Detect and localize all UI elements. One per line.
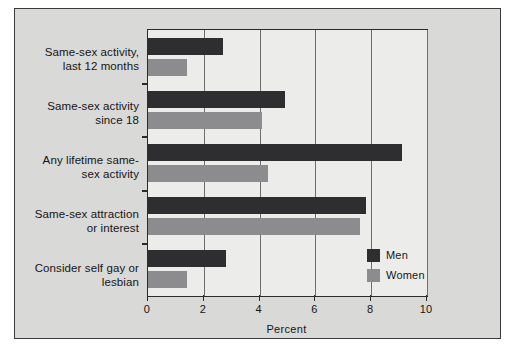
x-tick-label-8: 8 (355, 303, 385, 315)
bar-men-0 (148, 38, 223, 55)
x-tick-2 (203, 295, 204, 301)
men-swatch-icon (367, 249, 380, 262)
category-tick-4 (142, 243, 148, 245)
chart-legend: Men Women (367, 245, 425, 285)
chart-panel: Same-sex activity, last 12 months Same-s… (14, 8, 501, 339)
x-tick-label-6: 6 (299, 303, 329, 315)
category-axis: Same-sex activity, last 12 months Same-s… (15, 29, 147, 297)
bar-women-0 (148, 59, 187, 76)
category-label-3: Same-sex attraction or interest (25, 207, 147, 235)
chart-figure: Same-sex activity, last 12 months Same-s… (0, 0, 520, 356)
category-label-4-line2: lesbian (25, 275, 139, 289)
category-label-0-line2: last 12 months (25, 59, 139, 73)
x-tick-0 (147, 295, 148, 301)
category-label-2: Any lifetime same- sex activity (25, 153, 147, 181)
x-tick-label-0: 0 (132, 303, 162, 315)
x-tick-8 (370, 295, 371, 301)
category-label-4-line1: Consider self gay or (25, 261, 139, 275)
x-tick-6 (314, 295, 315, 301)
category-label-1: Same-sex activity since 18 (25, 99, 147, 127)
category-label-3-line1: Same-sex attraction (25, 207, 139, 221)
category-label-2-line1: Any lifetime same- (25, 153, 139, 167)
bar-men-4 (148, 250, 226, 267)
category-label-1-line2: since 18 (25, 113, 139, 127)
x-tick-label-4: 4 (244, 303, 274, 315)
category-label-0-line1: Same-sex activity, (25, 45, 139, 59)
category-label-0: Same-sex activity, last 12 months (25, 45, 147, 73)
category-label-4: Consider self gay or lesbian (25, 261, 147, 289)
category-tick-1 (142, 83, 148, 85)
category-tick-3 (142, 190, 148, 192)
gridline-4 (260, 30, 261, 296)
legend-label-women: Women (386, 269, 425, 281)
category-label-3-line2: or interest (25, 221, 139, 235)
legend-item-women: Women (367, 265, 425, 285)
gridline-10 (427, 30, 428, 296)
category-tick-2 (142, 136, 148, 138)
x-tick-4 (259, 295, 260, 301)
bar-women-1 (148, 112, 262, 129)
gridline-6 (315, 30, 316, 296)
bar-women-2 (148, 165, 268, 182)
legend-item-men: Men (367, 245, 425, 265)
legend-label-men: Men (386, 249, 408, 261)
category-label-2-line2: sex activity (25, 167, 139, 181)
bar-men-2 (148, 144, 402, 161)
x-tick-10 (426, 295, 427, 301)
bar-men-3 (148, 197, 366, 214)
bar-men-1 (148, 91, 285, 108)
x-axis-title: Percent (147, 323, 426, 335)
women-swatch-icon (367, 269, 380, 282)
x-tick-label-10: 10 (411, 303, 441, 315)
bar-women-3 (148, 218, 360, 235)
category-label-1-line1: Same-sex activity (25, 99, 139, 113)
bar-women-4 (148, 271, 187, 288)
x-tick-label-2: 2 (188, 303, 218, 315)
